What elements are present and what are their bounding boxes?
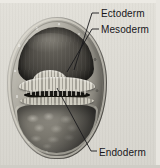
- ectoderm-leader: [74, 13, 99, 70]
- figure-canvas: Ectoderm Mesoderm Endoderm: [0, 0, 160, 168]
- label-mesoderm: Mesoderm: [101, 24, 149, 35]
- label-ectoderm: Ectoderm: [101, 8, 145, 19]
- endoderm-leader: [57, 88, 97, 151]
- label-endoderm: Endoderm: [99, 147, 146, 158]
- mesoderm-leader: [67, 29, 99, 72]
